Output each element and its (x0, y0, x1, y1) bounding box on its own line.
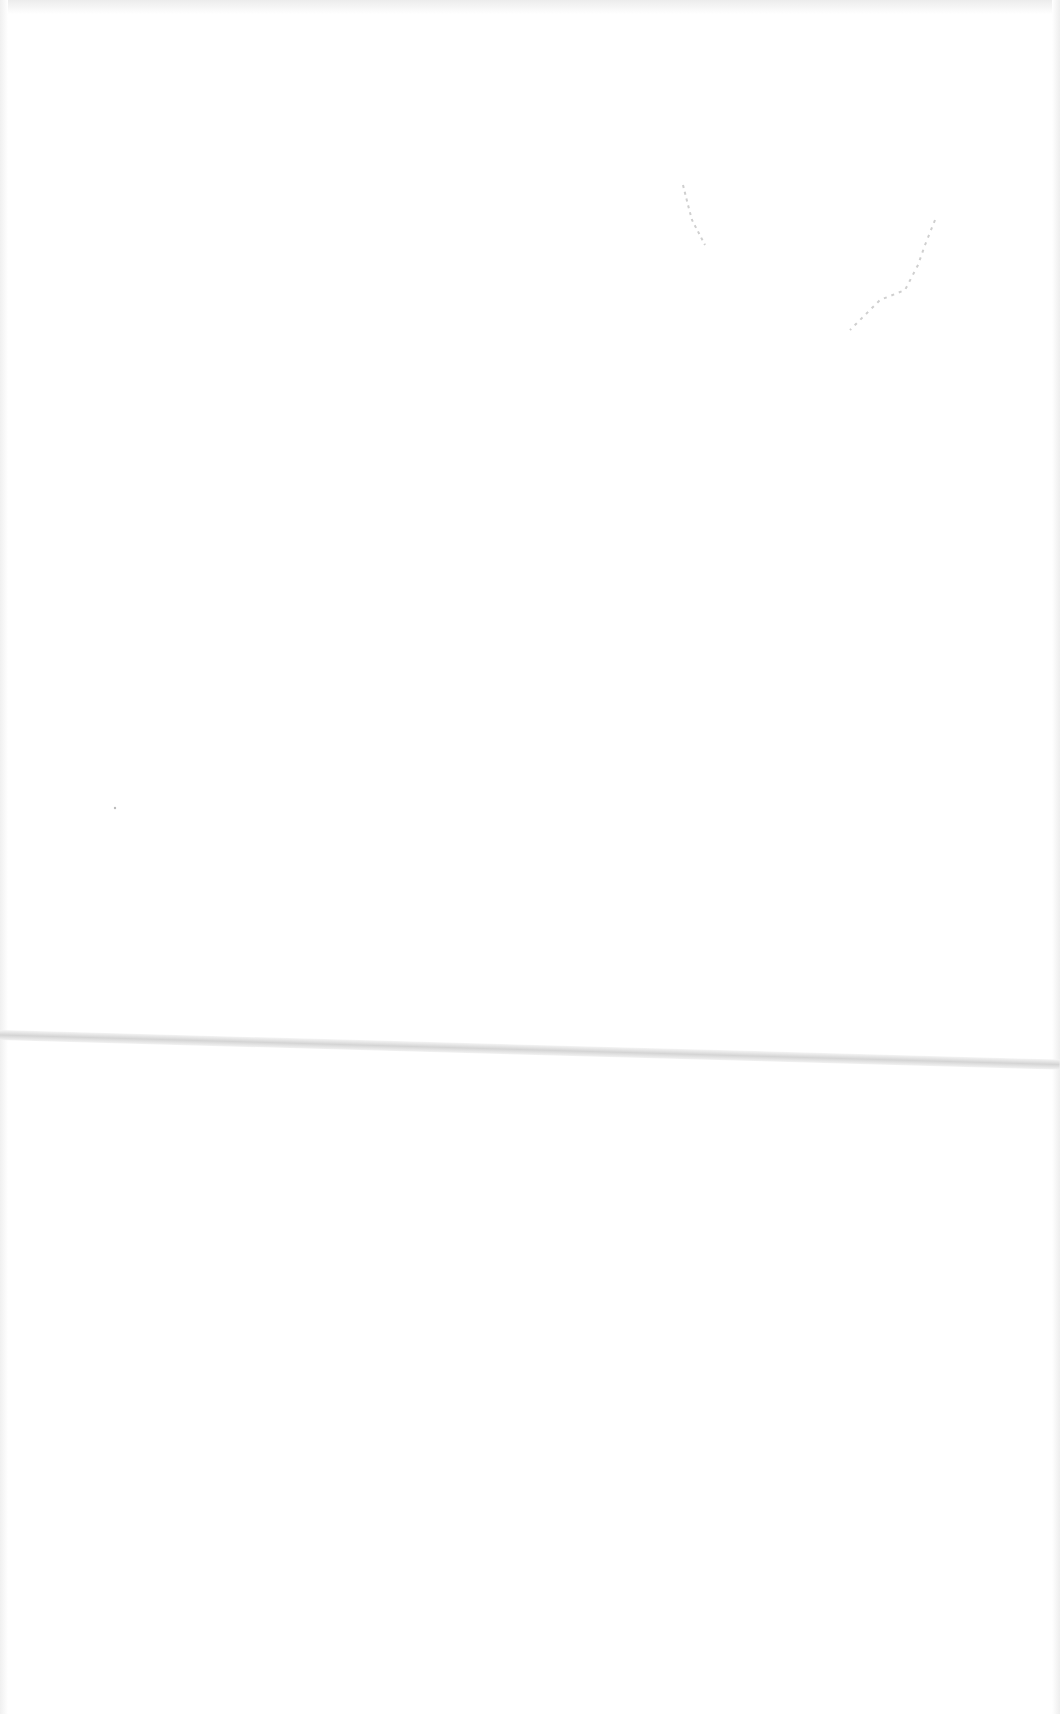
blank-page (0, 0, 1060, 1714)
faint-marks (0, 0, 1060, 1714)
